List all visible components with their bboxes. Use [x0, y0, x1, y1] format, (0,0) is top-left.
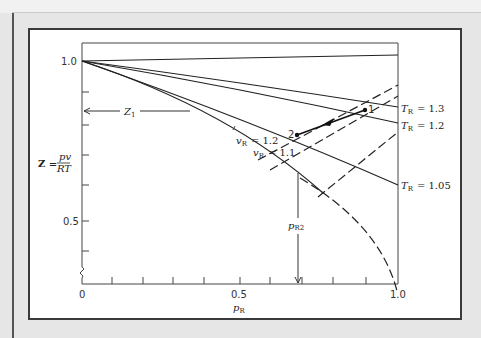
svg-text:RT: RT	[56, 163, 72, 174]
vr-lower-line	[318, 132, 398, 197]
isotherm-high	[82, 55, 398, 61]
point-2-label: 2	[288, 129, 294, 140]
x-ticks	[112, 277, 366, 284]
svg-text:pv: pv	[59, 151, 71, 162]
plot-frame	[80, 43, 398, 284]
tr-1-2-label: TR= 1.2	[401, 120, 444, 133]
y-tick-label-1: 1.0	[61, 56, 77, 67]
dashed-lines	[258, 85, 398, 291]
isotherm-1-3	[82, 61, 398, 107]
compressibility-chart: 1.0 0.5 0 0.5 1.0 pR Z = pv RT Z1 pR2 TR…	[0, 0, 481, 338]
process-path	[295, 108, 367, 137]
saturation-dome	[300, 178, 397, 291]
y-tick-label-05: 0.5	[63, 216, 79, 227]
y-ticks	[82, 92, 89, 251]
svg-text:Z =: Z =	[38, 158, 57, 169]
y-axis-label: Z = pv RT	[38, 151, 72, 174]
x-tick-label-05: 0.5	[231, 289, 247, 300]
x-tick-label-0: 0	[79, 289, 85, 300]
isotherm-sat	[82, 61, 323, 193]
z1-arrow	[84, 108, 190, 114]
z1-label: Z1	[123, 106, 135, 119]
tr-1-05-label: TR= 1.05	[401, 180, 451, 193]
point-1-label: 1	[368, 104, 374, 115]
x-tick-label-1: 1.0	[390, 289, 406, 300]
x-axis-label: pR	[233, 302, 245, 315]
state-point-2	[295, 133, 299, 137]
vr-1-1-label: vR= 1.1	[253, 147, 295, 160]
pr2-label: pR2	[288, 220, 304, 232]
state-point-1	[363, 108, 367, 112]
tr-1-3-label: TR= 1.3	[401, 103, 444, 116]
